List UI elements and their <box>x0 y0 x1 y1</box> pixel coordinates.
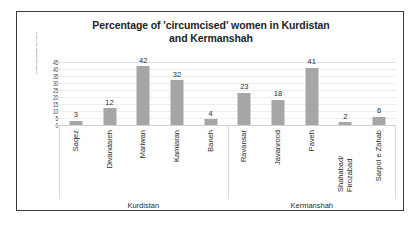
bar[interactable] <box>373 117 386 125</box>
category-label-slot: Paveh <box>295 128 329 198</box>
bar-value-label: 2 <box>343 112 347 121</box>
bar[interactable] <box>339 122 352 125</box>
bar[interactable] <box>137 66 150 125</box>
bar-slot: 3 <box>59 62 93 125</box>
bar-value-label: 41 <box>308 57 316 66</box>
bar-slot: 2 <box>329 62 363 125</box>
category-label: Baneh <box>206 130 215 152</box>
category-label-slot: Javanrood <box>261 128 295 198</box>
bar[interactable] <box>204 119 217 125</box>
category-label: Paveh <box>307 130 316 151</box>
category-label: Javanrood <box>274 130 283 165</box>
bar-value-label: 3 <box>74 110 78 119</box>
bar-slot: 23 <box>228 62 262 125</box>
bar[interactable] <box>69 121 82 125</box>
bar-slot: 42 <box>126 62 160 125</box>
category-label-slot: Shahabad/Firozabad <box>329 128 363 198</box>
category-label: Kamiaran <box>173 130 182 162</box>
bar-slot: 4 <box>194 62 228 125</box>
category-label-slot: Mariwan <box>126 128 160 198</box>
y-axis-tick-labels: 454035302520151050 <box>46 62 59 125</box>
bar-value-label: 12 <box>105 98 113 107</box>
bar-slot: 18 <box>261 62 295 125</box>
bar-value-label: 23 <box>240 82 248 91</box>
category-label-slot: Ravansar <box>228 128 262 198</box>
bar-slot: 6 <box>362 62 396 125</box>
category-label-slot: Sarpol e Zahab <box>362 128 396 198</box>
category-label: Saqez <box>72 130 81 151</box>
bar[interactable] <box>272 100 285 125</box>
bar[interactable] <box>238 93 251 125</box>
group-label-kermanshah: Kermanshah <box>228 201 397 210</box>
bars-layer: 3124232423184126 <box>59 62 396 125</box>
chart-title: Percentage of 'circumcised' women in Kur… <box>51 19 371 45</box>
category-label-slot: Kamiaran <box>160 128 194 198</box>
category-label: Ravansar <box>240 130 249 162</box>
category-label: Shahabad/Firozabad <box>337 130 354 192</box>
bar-slot: 41 <box>295 62 329 125</box>
bar-value-label: 4 <box>209 109 213 118</box>
bar[interactable] <box>103 108 116 125</box>
y-axis-tick-label: 0 <box>56 122 58 129</box>
bar[interactable] <box>305 68 318 125</box>
group-separator-left <box>59 125 60 199</box>
category-label: Divandareh <box>105 130 114 168</box>
bar-value-label: 42 <box>139 56 147 65</box>
group-separator-middle <box>228 125 229 199</box>
chart-title-line-1: Percentage of 'circumcised' women in Kur… <box>51 19 371 32</box>
category-label: Mariwan <box>139 130 148 158</box>
bar[interactable] <box>170 80 183 125</box>
bar-slot: 12 <box>93 62 127 125</box>
y-axis-title: Percentage of circumcised women <box>36 32 39 74</box>
bar-value-label: 6 <box>377 106 381 115</box>
category-label: Sarpol e Zahab <box>375 130 384 181</box>
bar-slot: 32 <box>160 62 194 125</box>
category-label-slot: Baneh <box>194 128 228 198</box>
group-label-kurdistan: Kurdistan <box>59 201 228 210</box>
bar-value-label: 18 <box>274 89 282 98</box>
bar-value-label: 32 <box>173 70 181 79</box>
category-label-line-2: Firozabad <box>345 130 354 192</box>
category-label-slot: Divandareh <box>93 128 127 198</box>
chart-title-line-2: and Kermanshah <box>51 32 371 45</box>
category-label-slot: Saqez <box>59 128 93 198</box>
group-separator-right <box>395 125 396 199</box>
chart-container: Percentage of 'circumcised' women in Kur… <box>16 11 404 211</box>
